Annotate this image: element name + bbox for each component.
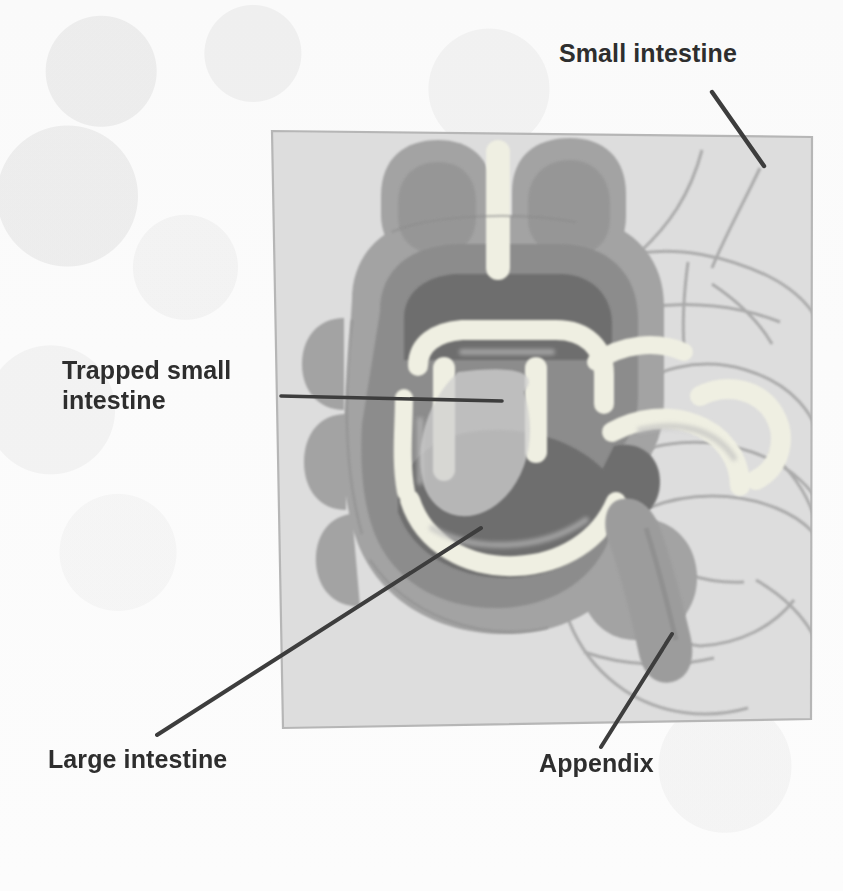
label-appendix: Appendix xyxy=(539,748,654,778)
trapped-loop-arc-inner xyxy=(403,398,406,492)
figure-root: Small intestine Trapped small intestine … xyxy=(0,0,843,891)
label-small-intestine: Small intestine xyxy=(559,38,737,68)
label-large-intestine: Large intestine xyxy=(48,744,227,774)
colon-haustra-top-inner-left xyxy=(398,162,476,254)
label-trapped-small-intestine: Trapped small intestine xyxy=(62,355,231,415)
colon-haustra-top-inner-right xyxy=(528,160,610,256)
